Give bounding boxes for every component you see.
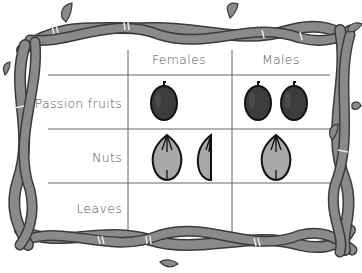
column-header-males: Males (262, 52, 300, 67)
passion-fruit-icon (151, 82, 177, 120)
row-label-passion-fruits: Passion fruits (4, 96, 122, 111)
vine-border (0, 0, 362, 273)
passion-fruit-icon (281, 82, 307, 120)
half-nut-icon (198, 135, 211, 180)
food-table-figure: Females Males Passion fruits Nuts Leaves (0, 0, 362, 273)
column-header-females: Females (152, 52, 206, 67)
row-label-leaves: Leaves (4, 201, 122, 216)
nut-icon (262, 135, 291, 180)
nut-icon (153, 135, 182, 180)
passion-fruit-icon (245, 82, 271, 120)
row-label-nuts: Nuts (4, 150, 122, 165)
